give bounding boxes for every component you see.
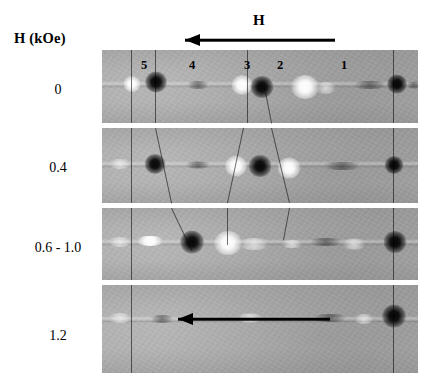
magnetic-contrast-spot	[225, 156, 247, 177]
column-index-label: 1	[334, 58, 354, 73]
y-axis-title: H (kOe)	[14, 30, 66, 47]
magnetic-contrast-spot	[385, 156, 404, 174]
magnetic-contrast-spot	[306, 238, 346, 246]
arrow-shaft	[178, 318, 330, 321]
mfm-scan-panel	[102, 128, 418, 203]
magnetic-contrast-spot	[237, 238, 271, 250]
magnetic-contrast-spot	[124, 76, 141, 92]
arrow-shaft	[185, 39, 335, 42]
magnetic-contrast-spot	[108, 159, 132, 169]
magnetic-contrast-spot	[291, 75, 319, 99]
magnetic-contrast-spot	[148, 315, 176, 323]
magnetic-contrast-spot	[384, 231, 407, 253]
magnetic-contrast-spot	[107, 237, 133, 247]
mfm-scan-panel	[102, 285, 418, 373]
magnetic-contrast-spot	[280, 240, 304, 248]
column-index-label: 4	[182, 58, 202, 73]
magnetic-contrast-spot	[251, 76, 274, 98]
arrow-head	[178, 313, 193, 325]
magnetic-contrast-spot	[180, 231, 204, 254]
column-index-label: 5	[134, 58, 154, 73]
magnetic-contrast-spot	[183, 162, 213, 169]
magnetic-contrast-spot	[145, 72, 167, 93]
column-index-label: 2	[270, 58, 290, 73]
field-arrow-label: H	[253, 12, 265, 29]
magnetic-contrast-spot	[382, 305, 406, 328]
magnetic-contrast-spot	[135, 236, 165, 246]
field-direction-arrow	[185, 32, 335, 48]
magnetic-contrast-spot	[387, 75, 407, 94]
magnetic-contrast-spot	[278, 158, 301, 179]
magnetic-contrast-spot	[249, 155, 272, 177]
magnetic-contrast-spot	[145, 154, 166, 174]
magnetic-contrast-spot	[214, 231, 242, 255]
magnetic-contrast-spot	[350, 81, 390, 89]
row-label-field-value: 0	[0, 82, 116, 98]
magnetic-contrast-spot	[185, 81, 211, 89]
magnetic-contrast-spot	[319, 162, 365, 170]
inset-field-direction-arrow	[178, 311, 330, 327]
nanowire-track	[102, 239, 418, 246]
column-index-label: 3	[237, 58, 257, 73]
row-label-field-value: 0.4	[0, 160, 116, 176]
nanowire-track	[102, 81, 418, 88]
magnetic-contrast-spot	[341, 239, 367, 250]
magnetic-contrast-spot	[405, 82, 418, 89]
row-label-field-value: 1.2	[0, 328, 116, 344]
nanowire-track	[102, 161, 418, 168]
magnetic-contrast-spot	[315, 82, 337, 94]
arrow-head	[185, 34, 200, 46]
mfm-scan-panel	[102, 208, 418, 280]
magnetic-contrast-spot	[107, 313, 133, 323]
magnetic-contrast-spot	[232, 75, 253, 95]
magnetic-contrast-spot	[353, 314, 375, 324]
row-label-field-value: 0.6 - 1.0	[0, 240, 116, 256]
mfm-figure: H (kOe) H 00.40.6 - 1.01.2 54321	[0, 0, 426, 376]
